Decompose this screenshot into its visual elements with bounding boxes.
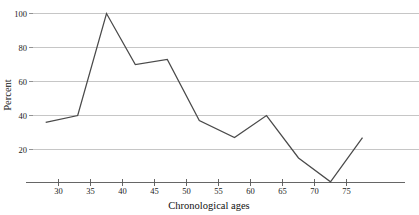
- x-tick-label-65: 65: [278, 186, 287, 196]
- y-tick-label-100: 100: [14, 9, 27, 19]
- gridlines: [33, 14, 419, 150]
- y-tick-label-60: 60: [19, 77, 28, 87]
- x-axis-title: Chronological ages: [168, 200, 249, 211]
- line-chart: 100 80 60 40 20 Percent 30 35 40: [0, 0, 419, 215]
- x-tick-label-35: 35: [86, 186, 95, 196]
- chart-figure: 100 80 60 40 20 Percent 30 35 40: [0, 0, 419, 215]
- x-tick-label-45: 45: [150, 186, 159, 196]
- x-tick-label-30: 30: [54, 186, 63, 196]
- x-tick-label-70: 70: [310, 186, 319, 196]
- x-tick-label-75: 75: [342, 186, 351, 196]
- y-tick-marks: [29, 14, 33, 150]
- y-axis-title: Percent: [2, 79, 13, 111]
- y-tick-label-40: 40: [19, 111, 28, 121]
- x-tick-label-55: 55: [214, 186, 223, 196]
- data-series-percent: [46, 14, 363, 182]
- y-tick-label-20: 20: [19, 145, 28, 155]
- x-tick-label-60: 60: [246, 186, 255, 196]
- y-tick-label-80: 80: [19, 43, 28, 53]
- x-tick-labels: 30 35 40 45 50 55 60 65 70 75: [54, 186, 351, 196]
- y-tick-labels: 100 80 60 40 20: [14, 9, 27, 155]
- x-tick-label-50: 50: [182, 186, 191, 196]
- x-tick-label-40: 40: [118, 186, 127, 196]
